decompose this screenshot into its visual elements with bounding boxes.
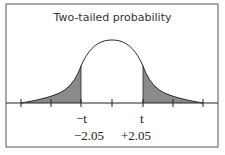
neg-t-label: −t [76,111,87,127]
bell-curve [21,40,203,103]
pos-critical-value: +2.05 [121,128,151,144]
border [6,4,218,147]
diagram-title: Two-tailed probability [0,11,225,24]
neg-critical-value: −2.05 [74,128,104,144]
right-tail-shade [143,66,203,103]
left-tail-shade [21,66,81,103]
pos-t-label: t [140,111,144,127]
